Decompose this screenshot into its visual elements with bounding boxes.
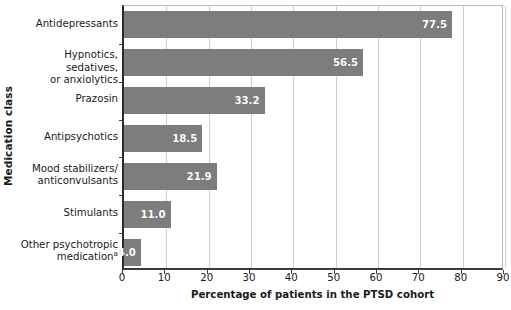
bar-value-label: 33.2	[234, 95, 259, 106]
y-axis-tick	[119, 44, 124, 45]
bar-value-label: 4.0	[118, 247, 136, 258]
x-axis-tick-label: 0	[119, 272, 125, 283]
bar-value-label: 11.0	[140, 209, 165, 220]
category-label: Antipsychotics	[14, 131, 118, 143]
bars-layer: 77.556.533.218.521.911.04.0	[124, 6, 502, 268]
y-axis-tick	[119, 82, 124, 83]
gridline	[505, 6, 506, 268]
category-label: Antidepressants	[14, 18, 118, 30]
y-axis-tick	[119, 120, 124, 121]
category-label: Mood stabilizers/anticonvulsants	[14, 163, 118, 188]
bar-value-label: 18.5	[172, 133, 197, 144]
category-label-line: Stimulants	[14, 207, 118, 219]
y-axis-category-labels: AntidepressantsHypnotics, sedatives,or a…	[14, 5, 118, 270]
x-axis-tick-label: 80	[454, 272, 467, 283]
y-axis-tick	[119, 157, 124, 158]
category-label: Prazosin	[14, 93, 118, 105]
plot-area: 77.556.533.218.521.911.04.0	[122, 5, 503, 270]
category-label-line: Other psychotropic	[14, 239, 118, 251]
bar: 11.0	[124, 201, 171, 228]
category-label-line: Antidepressants	[14, 18, 118, 30]
bar: 77.5	[124, 11, 452, 38]
x-axis-tick-label: 10	[158, 272, 171, 283]
bar: 21.9	[124, 163, 217, 190]
x-axis-tick-label: 40	[285, 272, 298, 283]
category-label: Hypnotics, sedatives,or anxiolytics	[14, 49, 118, 86]
category-label-line: Prazosin	[14, 93, 118, 105]
x-axis-tick-label: 90	[497, 272, 510, 283]
bar: 4.0	[124, 239, 141, 266]
x-axis-title: Percentage of patients in the PTSD cohor…	[122, 289, 503, 300]
category-label-line: Antipsychotics	[14, 131, 118, 143]
x-axis-tick-label: 60	[370, 272, 383, 283]
bar: 18.5	[124, 125, 202, 152]
x-axis-tick-label: 30	[243, 272, 256, 283]
category-label: Other psychotropicmedicationa	[14, 239, 118, 264]
category-label-line: Mood stabilizers/	[14, 163, 118, 175]
category-label: Stimulants	[14, 207, 118, 219]
bar-value-label: 21.9	[187, 171, 212, 182]
category-label-line: medicationa	[14, 251, 118, 263]
bar-value-label: 56.5	[333, 57, 358, 68]
bar-value-label: 77.5	[422, 19, 447, 30]
x-axis-tick-label: 20	[200, 272, 213, 283]
bar-chart: Medication class AntidepressantsHypnotic…	[0, 0, 511, 310]
y-axis-tick	[119, 195, 124, 196]
y-axis-title-text: Medication class	[2, 86, 14, 186]
y-axis-tick	[119, 233, 124, 234]
bar: 33.2	[124, 87, 265, 114]
x-axis-tick-label: 70	[412, 272, 425, 283]
category-label-line: Hypnotics, sedatives,	[14, 49, 118, 74]
category-label-line: anticonvulsants	[14, 175, 118, 187]
x-axis-tick-label: 50	[327, 272, 340, 283]
x-axis-tick-labels: 0102030405060708090	[122, 272, 503, 288]
bar: 56.5	[124, 49, 363, 76]
category-label-line: or anxiolytics	[14, 74, 118, 86]
